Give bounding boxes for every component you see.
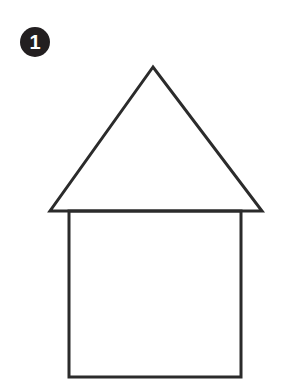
house-drawing	[0, 0, 283, 387]
roof-triangle	[50, 67, 262, 211]
house-body-rectangle	[69, 211, 241, 377]
